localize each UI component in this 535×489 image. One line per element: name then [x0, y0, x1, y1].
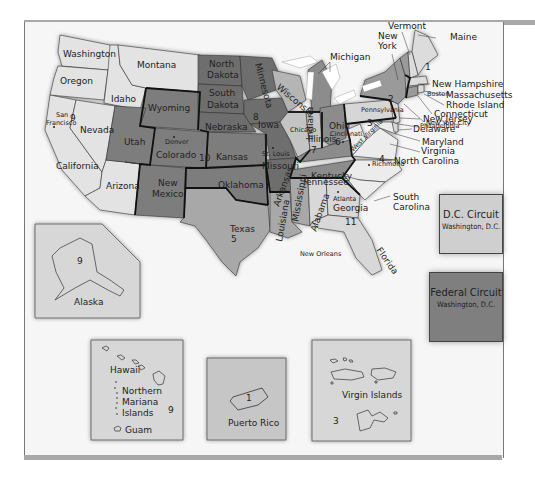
- virgin-islands-circuit-number: 3: [333, 416, 339, 426]
- label-new-orleans: New Orleans: [300, 250, 342, 258]
- label-michigan: Michigan: [330, 52, 370, 62]
- circuit-3-number: 3: [367, 118, 373, 128]
- label-denver: Denver: [165, 138, 189, 146]
- label-south-carolina-2: Carolina: [393, 202, 430, 212]
- label-california: California: [56, 161, 99, 171]
- dc-circuit-name: D.C. Circuit: [440, 208, 502, 221]
- label-south-dakota-2: Dakota: [207, 100, 239, 110]
- state-kansas: [206, 132, 266, 168]
- federal-circuit-box: Federal Circuit Washington, D.C.: [429, 272, 503, 342]
- label-new-mexico-1: New: [158, 178, 178, 188]
- alaska-label: Alaska: [74, 297, 103, 307]
- circuit-9-number: 9: [70, 113, 76, 123]
- state-rhode-island: [418, 85, 424, 93]
- san-francisco-dot: [53, 126, 55, 128]
- label-richmond: Richmond: [372, 160, 405, 168]
- circuit-11-number: 11: [345, 217, 356, 227]
- hawaii-label: Hawaii: [110, 365, 140, 375]
- label-north-dakota-1: North: [209, 59, 234, 69]
- federal-circuit-location: Washington, D.C.: [430, 300, 502, 309]
- label-colorado: Colorado: [156, 150, 197, 160]
- guam-label: Guam: [125, 425, 152, 435]
- label-nevada: Nevada: [80, 125, 114, 135]
- circuit-4-number: 4: [379, 154, 385, 164]
- atlanta-dot: [337, 191, 339, 193]
- label-connecticut: Connecticut: [434, 109, 488, 119]
- nmi-label-3: Islands: [122, 408, 154, 418]
- label-washington: Washington: [63, 49, 116, 59]
- hawaii-inset: Hawaii Northern Mariana Islands 9 Guam: [91, 340, 183, 440]
- dc-circuit-location: Washington, D.C.: [440, 222, 502, 231]
- label-massachusetts: Massachusetts: [446, 90, 513, 100]
- label-north-dakota-2: Dakota: [207, 70, 239, 80]
- nmi-label-1: Northern: [122, 386, 162, 396]
- circuit-6-number: 6: [335, 137, 341, 147]
- label-tennessee: Tennessee: [301, 177, 349, 187]
- label-virginia: Virginia: [421, 146, 455, 156]
- label-wyoming: Wyoming: [148, 103, 190, 113]
- label-montana: Montana: [137, 60, 176, 70]
- label-georgia: Georgia: [333, 203, 368, 213]
- label-pennsylvania: Pennsylvania: [361, 106, 404, 114]
- label-atlanta: Atlanta: [333, 195, 356, 203]
- label-san-francisco-1: San: [56, 111, 68, 119]
- state-massachusetts: [408, 76, 428, 86]
- federal-circuit-name: Federal Circuit: [430, 286, 502, 299]
- label-new-mexico-2: Mexico: [152, 189, 184, 199]
- virgin-islands-inset: Virgin Islands 3: [312, 340, 411, 441]
- circuit-5-number: 5: [231, 234, 237, 244]
- richmond-dot: [368, 164, 370, 166]
- puerto-rico-inset: 1 Puerto Rico: [207, 358, 286, 440]
- label-indiana: Indiana: [305, 107, 315, 140]
- label-vermont: Vermont: [388, 21, 427, 31]
- label-oklahoma: Oklahoma: [218, 180, 264, 190]
- puerto-rico-circuit-number: 1: [246, 393, 252, 403]
- puerto-rico-label: Puerto Rico: [228, 418, 280, 428]
- nmi-label-2: Mariana: [122, 397, 158, 407]
- label-st-louis: St. Louis: [262, 150, 290, 158]
- virgin-islands-label: Virgin Islands: [342, 390, 403, 400]
- label-arizona: Arizona: [106, 181, 140, 191]
- label-nebraska: Nebraska: [205, 122, 247, 132]
- label-idaho: Idaho: [111, 94, 137, 104]
- label-maryland: Maryland: [422, 137, 464, 147]
- circuit-7-number: 7: [311, 145, 317, 155]
- label-iowa: Iowa: [258, 120, 279, 130]
- label-utah: Utah: [124, 137, 145, 147]
- label-texas: Texas: [229, 224, 255, 234]
- label-new-hampshire: New Hampshire: [432, 79, 504, 89]
- label-kansas: Kansas: [216, 152, 248, 162]
- circuit-2-number: 2: [388, 94, 394, 104]
- label-south-carolina-1: South: [393, 192, 419, 202]
- label-south-dakota-1: South: [209, 88, 235, 98]
- st-louis-dot: [272, 147, 274, 149]
- cincinnati-dot: [342, 141, 344, 143]
- label-new-york-city: New York City: [426, 119, 471, 127]
- label-new-york-2: York: [377, 41, 398, 51]
- circuit-8-number: 8: [253, 112, 259, 122]
- alaska-circuit-number: 9: [77, 256, 83, 266]
- dc-circuit-box: D.C. Circuit Washington, D.C.: [439, 194, 503, 254]
- hawaii-circuit-number: 9: [168, 405, 174, 415]
- circuit-10-number: 10: [199, 153, 211, 163]
- alaska-inset: 9 Alaska: [35, 224, 140, 318]
- label-chicago: Chicago: [290, 126, 316, 134]
- label-oregon: Oregon: [60, 76, 93, 86]
- label-maine: Maine: [450, 32, 477, 42]
- circuit-1-number: 1: [425, 62, 431, 72]
- label-new-york-1: New: [378, 31, 398, 41]
